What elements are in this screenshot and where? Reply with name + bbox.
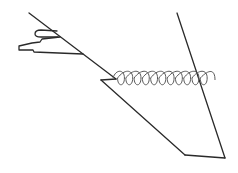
incline-lower xyxy=(101,80,185,155)
incline-upper xyxy=(29,13,116,79)
upper-tab xyxy=(35,30,58,37)
right-slant xyxy=(177,13,225,158)
notch xyxy=(101,79,116,80)
diagram-canvas xyxy=(0,0,238,173)
lower-block xyxy=(19,37,83,54)
base xyxy=(185,155,225,158)
